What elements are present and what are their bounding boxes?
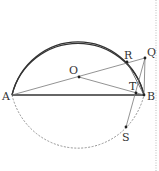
label-S: S — [122, 131, 130, 144]
label-T: T — [129, 80, 137, 93]
point-Q — [144, 57, 147, 60]
label-Q: Q — [147, 46, 156, 59]
geometry-diagram: A B O Q R T S — [0, 0, 159, 171]
segment-BQ — [144, 58, 145, 95]
label-R: R — [124, 49, 133, 62]
label-A: A — [1, 90, 11, 103]
label-B: B — [147, 90, 155, 103]
point-B — [143, 94, 146, 97]
point-S — [125, 126, 128, 129]
label-O: O — [69, 64, 78, 77]
